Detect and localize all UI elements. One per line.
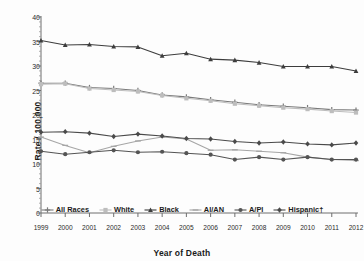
x-tick-label: 2002 (101, 224, 127, 231)
x-tick-label: 2009 (270, 224, 296, 231)
series-all-races (38, 80, 358, 112)
x-axis-title: Year of Death (0, 248, 364, 258)
line-chart: Rate / 100,000 0510152025303540 19992000… (0, 0, 364, 261)
x-tick-label: 2011 (319, 224, 345, 231)
x-tick-label: 2012 (343, 224, 364, 231)
x-tick-label: 2010 (295, 224, 321, 231)
x-tick-label: 2008 (246, 224, 272, 231)
series-a-pi (39, 148, 358, 162)
series-black (39, 38, 359, 73)
x-tick-label: 2000 (52, 224, 78, 231)
x-tick-label: 2006 (198, 224, 224, 231)
plot-area (0, 0, 364, 261)
x-tick-label: 1999 (28, 224, 54, 231)
x-tick-label: 2001 (76, 224, 102, 231)
x-tick-label: 2005 (173, 224, 199, 231)
x-tick-label: 2007 (222, 224, 248, 231)
x-tick-label: 2003 (125, 224, 151, 231)
x-tick-label: 2004 (149, 224, 175, 231)
